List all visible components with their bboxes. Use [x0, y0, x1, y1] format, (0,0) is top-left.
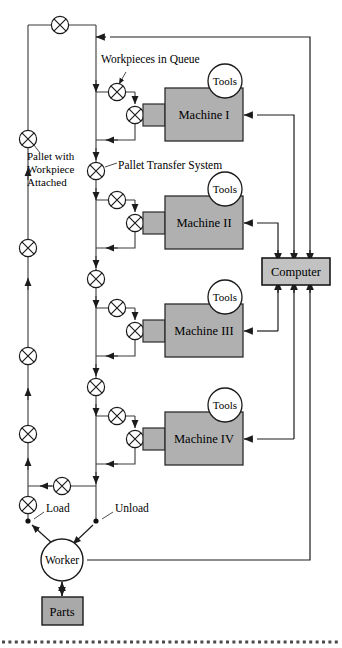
pallet-with-workpiece-line2: Workpiece	[27, 163, 74, 175]
pallet-with-workpiece-line3: Attached	[27, 176, 67, 188]
pallet-queue-machine-3	[108, 299, 125, 316]
pallet-transfer-node	[87, 162, 104, 179]
workpieces-in-queue-label: Workpieces in Queue	[101, 53, 200, 66]
pallet-input-machine-1	[126, 106, 143, 123]
fms-layout-diagram: Tools Machine I Tools Machine II Tools M…	[0, 0, 342, 648]
unload-point	[93, 518, 98, 523]
pallet-queue-machine-1	[108, 83, 125, 100]
pallet-transfer-leader	[105, 163, 117, 167]
machine-1-stub	[143, 104, 165, 126]
pallet-main-rail-3	[87, 378, 104, 395]
machine-4-stub	[143, 428, 165, 450]
pallet-left-rail-3	[19, 347, 36, 364]
pallet-transfer-system-label: Pallet Transfer System	[118, 159, 222, 172]
pallet-main-rail-2	[87, 270, 104, 287]
parts-label: Parts	[50, 605, 75, 619]
computer-label: Computer	[271, 265, 322, 279]
workpieces-queue-leader	[119, 72, 126, 84]
pallet-top-rail	[51, 16, 68, 33]
pallet-queue-machine-4	[108, 407, 125, 424]
machine-3-label: Machine III	[174, 324, 233, 338]
worker-to-load-arrow	[32, 525, 53, 544]
pallet-input-machine-4	[126, 430, 143, 447]
pallet-with-workpiece-line1: Pallet with	[27, 150, 75, 162]
machine-1-tools-label: Tools	[213, 75, 237, 87]
unload-to-worker-arrow	[73, 525, 93, 544]
pallet-left-rail-2	[19, 239, 36, 256]
worker-label: Worker	[45, 554, 79, 566]
pallet-left-rail-4	[19, 425, 36, 442]
machine-4-label: Machine IV	[174, 432, 234, 446]
cropped-header-text	[36, 0, 39, 9]
machine-2-tools-label: Tools	[213, 183, 237, 195]
machine-3-tools-label: Tools	[213, 291, 237, 303]
machine-4-tools-label: Tools	[213, 399, 237, 411]
unload-leader	[102, 512, 113, 519]
machine-2-stub	[143, 212, 165, 234]
machine-1-label: Machine I	[178, 108, 229, 122]
pallet-unload-rail	[53, 477, 70, 494]
pallet-load-station	[19, 496, 36, 513]
load-leader	[34, 512, 44, 519]
pallet-input-machine-2	[126, 214, 143, 231]
machine-2-label: Machine II	[176, 216, 231, 230]
load-label: Load	[46, 502, 70, 514]
machine-3-stub	[143, 320, 165, 342]
diagram-canvas: Tools Machine I Tools Machine II Tools M…	[0, 0, 342, 648]
load-point	[25, 518, 30, 523]
pallet-input-machine-3	[126, 322, 143, 339]
pallet-queue-machine-2	[108, 191, 125, 208]
unload-label: Unload	[115, 502, 149, 514]
